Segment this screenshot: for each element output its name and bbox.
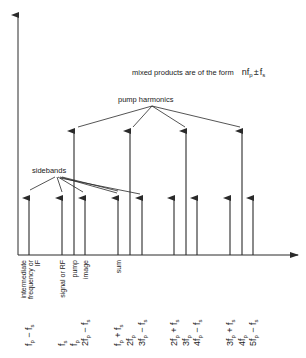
frequency-formula-labels: fp − fsfsfp2fp − fsfp + fs2fp3fp − fs2fp… [24,319,259,346]
mixer-spectrum-diagram: mixed products are of the form nfp±fs pu… [0,0,306,358]
frequency-label-2fp: 2fp [125,334,136,346]
sidebands-label: sidebands [32,166,66,175]
pump-harmonics-label: pump harmonics [118,95,174,104]
descriptive-label: sum [115,260,122,273]
frequency-label-3fp−fs: 3fp − fs [137,319,148,346]
frequency-label-fp−fs: fp − fs [24,324,35,346]
pump-harmonic-arrows [74,131,242,255]
frequency-label-3fp: 3fp [181,334,192,346]
descriptive-label: signal or RF [59,260,67,298]
pump-harmonics-leaders [78,106,240,127]
frequency-label-3fp+fs: 3fp + fs [225,319,236,346]
frequency-label-fs: fs [57,340,68,346]
descriptive-label: intermediate [20,260,27,299]
sidebands-leaders [30,177,140,194]
mixed-products-note: mixed products are of the form nfp±fs [132,67,265,78]
frequency-label-fp+fs: fp + fs [113,324,124,346]
frequency-label-4fp−fs: 4fp − fs [192,319,203,346]
frequency-label-fp: fp [69,339,80,346]
descriptive-label: pump [71,260,79,278]
frequency-label-5fp−fs: 5fp − fs [248,319,259,346]
descriptive-label: IF [34,260,41,266]
sideband-arrows [29,198,253,255]
descriptive-label: image [82,260,90,279]
frequency-label-4fp: 4fp [237,334,248,346]
frequency-label-2fp+fs: 2fp + fs [169,319,180,346]
descriptive-labels: intermediatefrequency orIFsignal or RFpu… [20,259,122,299]
frequency-label-2fp−fs: 2fp − fs [80,319,91,346]
